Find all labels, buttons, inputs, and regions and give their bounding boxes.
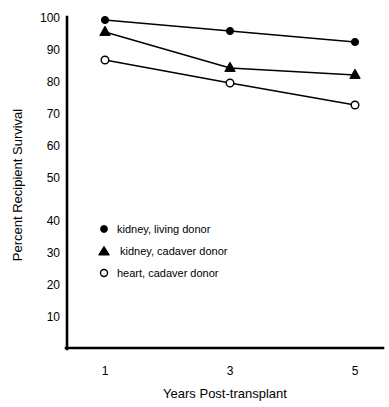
legend-label: kidney, cadaver donor <box>120 245 228 257</box>
x-tick-labels: 1 3 5 <box>102 364 359 378</box>
x-tick-label: 1 <box>102 364 109 378</box>
x-tick-label: 5 <box>352 364 359 378</box>
y-tick-label: 90 <box>47 43 61 57</box>
y-tick-label: 30 <box>47 246 61 260</box>
chart-legend: kidney, living donor kidney, cadaver don… <box>99 223 228 279</box>
y-tick-label: 10 <box>47 310 61 324</box>
data-point-marker <box>226 79 234 87</box>
data-point-marker <box>226 27 233 34</box>
data-point-marker <box>351 38 358 45</box>
legend-entry-heart-cadaver-donor: heart, cadaver donor <box>101 267 219 279</box>
data-point-marker <box>350 69 360 78</box>
legend-marker-filled-circle-icon <box>101 226 108 233</box>
y-axis-title: Percent Recipient Survival <box>10 109 25 262</box>
legend-marker-filled-triangle-icon <box>99 246 110 255</box>
survival-line-chart: 100 90 80 70 60 50 40 30 20 10 1 3 5 Yea… <box>0 0 389 407</box>
data-point-marker <box>351 101 359 109</box>
chart-figure: 100 90 80 70 60 50 40 30 20 10 1 3 5 Yea… <box>0 0 389 407</box>
legend-entry-kidney-living-donor: kidney, living donor <box>101 223 211 235</box>
data-point-marker <box>101 56 109 64</box>
y-tick-label: 20 <box>47 278 61 292</box>
legend-label: heart, cadaver donor <box>117 267 219 279</box>
y-tick-label: 40 <box>47 214 61 228</box>
series-kidney-living-donor <box>101 16 358 45</box>
y-tick-label: 100 <box>40 11 60 25</box>
legend-entry-kidney-cadaver-donor: kidney, cadaver donor <box>99 245 228 257</box>
data-point-marker <box>101 16 108 23</box>
y-tick-label: 60 <box>47 139 61 153</box>
y-tick-label: 70 <box>47 107 61 121</box>
y-tick-label: 80 <box>47 75 61 89</box>
y-tick-labels: 100 90 80 70 60 50 40 30 20 10 <box>40 11 60 324</box>
data-point-marker <box>100 26 110 35</box>
legend-marker-open-circle-icon <box>101 270 108 277</box>
legend-label: kidney, living donor <box>117 223 211 235</box>
y-tick-label: 50 <box>47 171 61 185</box>
x-axis-title: Years Post-transplant <box>163 386 287 401</box>
x-tick-label: 3 <box>227 364 234 378</box>
